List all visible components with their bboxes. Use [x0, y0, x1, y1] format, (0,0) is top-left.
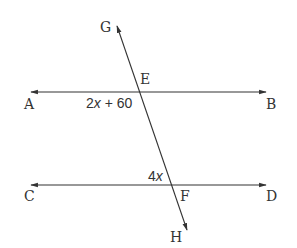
label-c: C	[24, 188, 35, 204]
label-f: F	[180, 188, 190, 204]
label-a: A	[23, 96, 35, 112]
label-d: D	[266, 188, 277, 204]
label-g: G	[100, 19, 111, 35]
transversal-gh	[117, 26, 187, 230]
label-e: E	[140, 71, 150, 87]
parallel-lines-diagram: G E A B C F D H 2x + 60 4x	[0, 0, 297, 248]
angle-label-e: 2x + 60	[86, 95, 133, 111]
label-h: H	[170, 229, 182, 245]
angle-label-f: 4x	[148, 168, 164, 184]
label-b: B	[266, 96, 276, 112]
